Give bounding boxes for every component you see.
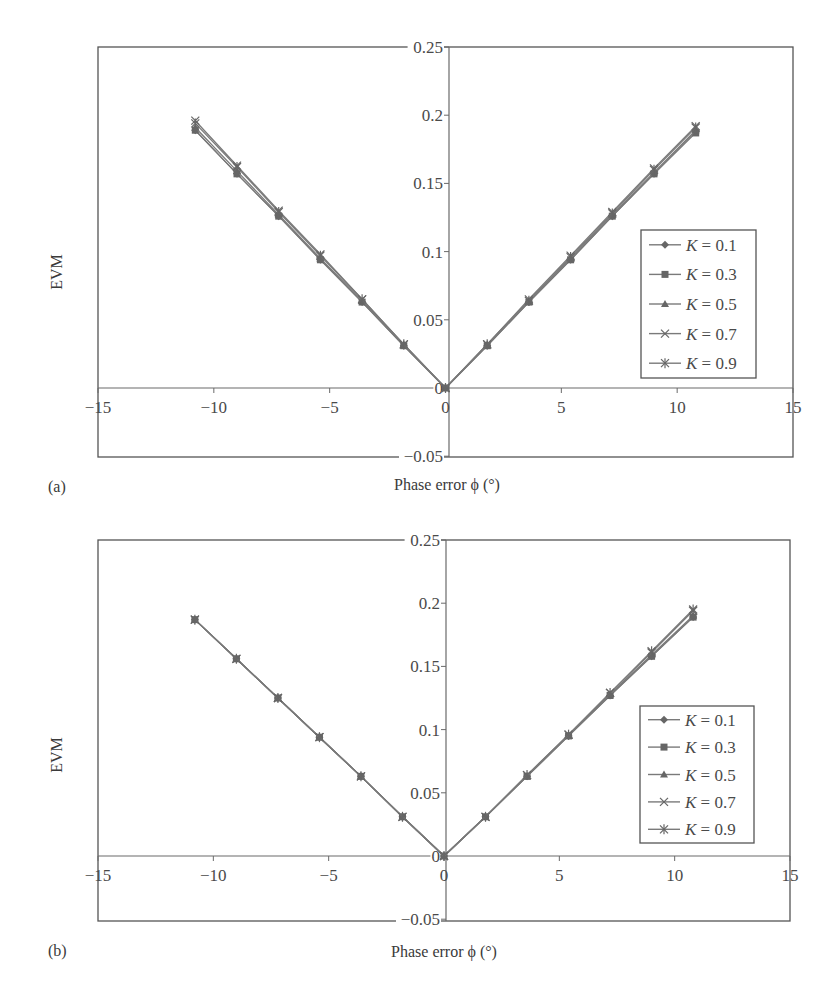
x-axis-title: Phase error ϕ (°) [394, 476, 500, 494]
panel-label: (a) [48, 478, 66, 496]
y-axis-title: EVM [48, 254, 65, 290]
x-tick-label: −5 [320, 866, 338, 885]
legend-label: K = 0.9 [684, 820, 736, 839]
series-line [195, 130, 695, 388]
series-star [191, 118, 699, 393]
series-diamond [191, 613, 697, 860]
legend-label: K = 0.7 [685, 325, 737, 344]
series-triangle [191, 123, 699, 391]
y-tick-label: 0.15 [413, 174, 443, 193]
legend-marker-square-icon [662, 271, 669, 278]
series-line [195, 610, 693, 857]
x-tick-label: −15 [85, 398, 112, 417]
legend-label: K = 0.5 [684, 766, 736, 785]
data-point-marker [233, 162, 241, 172]
series-cross [191, 117, 699, 392]
x-tick-label: 10 [669, 398, 686, 417]
y-tick-label: −0.05 [401, 910, 440, 929]
series-diamond [191, 126, 699, 392]
series-line [195, 617, 693, 856]
series-line [195, 121, 695, 388]
y-tick-label: 0.25 [410, 531, 440, 550]
y-tick-label: 0.1 [419, 721, 440, 740]
legend-label: K = 0.1 [685, 236, 737, 255]
legend: K = 0.1K = 0.3K = 0.5K = 0.7K = 0.9 [641, 230, 756, 378]
x-tick-label: −5 [321, 398, 339, 417]
legend-label: K = 0.3 [685, 265, 737, 284]
series-cross [191, 607, 697, 860]
x-tick-label: 15 [782, 866, 799, 885]
x-tick-label: −15 [85, 866, 112, 885]
x-tick-label: 0 [441, 398, 450, 417]
chart-panel-b: −15−10−5051015−0.0500.050.10.150.20.25K … [48, 531, 799, 961]
y-tick-label: 0.05 [410, 784, 440, 803]
panel-label: (b) [48, 942, 67, 960]
x-tick-label: −10 [200, 866, 227, 885]
legend-label: K = 0.1 [684, 711, 736, 730]
legend-label: K = 0.5 [685, 295, 737, 314]
x-tick-label: 0 [440, 866, 449, 885]
series-line [195, 617, 693, 856]
x-tick-label: 5 [555, 866, 564, 885]
series-line [195, 128, 695, 389]
chart-panel-a: −15−10−5051015−0.0500.050.10.150.20.25K … [48, 38, 802, 496]
x-tick-label: 10 [666, 866, 683, 885]
data-point-marker [648, 646, 656, 656]
figure-canvas: −15−10−5051015−0.0500.050.10.150.20.25K … [0, 0, 835, 999]
series-triangle [191, 612, 697, 859]
x-axis-title: Phase error ϕ (°) [391, 943, 497, 961]
series-line [195, 123, 695, 388]
y-tick-label: 0.2 [422, 106, 443, 125]
series-square [191, 614, 696, 860]
y-tick-label: 0.25 [413, 38, 443, 57]
y-tick-label: 0.15 [410, 657, 440, 676]
series-line [195, 611, 693, 856]
y-tick-label: 0.1 [422, 243, 443, 262]
legend-label: K = 0.7 [684, 793, 736, 812]
series-star [191, 605, 697, 861]
x-tick-label: 5 [557, 398, 566, 417]
legend-label: K = 0.3 [684, 738, 736, 757]
series-line [195, 130, 695, 388]
legend-marker-square-icon [661, 744, 668, 751]
y-tick-label: 0.05 [413, 311, 443, 330]
y-tick-label: 0.2 [419, 594, 440, 613]
legend: K = 0.1K = 0.3K = 0.5K = 0.7K = 0.9 [640, 706, 754, 843]
series-square [192, 127, 699, 392]
legend-label: K = 0.9 [685, 354, 737, 373]
data-point-marker [689, 605, 697, 615]
x-tick-label: −10 [201, 398, 228, 417]
y-axis-title: EVM [48, 737, 65, 773]
data-point-marker [692, 122, 700, 132]
x-tick-label: 15 [785, 398, 802, 417]
series-line [195, 616, 693, 856]
y-tick-label: 0 [432, 847, 441, 866]
y-tick-label: −0.05 [404, 447, 443, 466]
